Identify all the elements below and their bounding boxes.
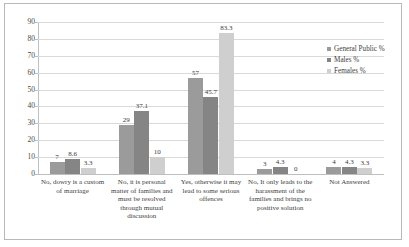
legend-item[interactable]: Females % [327,66,403,76]
y-axis-tick-mark [35,56,38,57]
y-axis-tick-mark [35,73,38,74]
bar[interactable] [203,97,218,174]
bar-group: 78.63.3 [38,22,107,174]
y-axis-tick-mark [35,140,38,141]
x-axis-category-label: No, it is personal matter of families an… [108,178,175,221]
bar[interactable] [50,162,65,174]
bar[interactable] [357,168,372,174]
y-axis-tick-mark [35,157,38,158]
bar[interactable] [326,167,341,174]
legend-swatch-icon [327,47,331,51]
bar[interactable] [81,168,96,174]
legend-swatch-icon [327,58,331,62]
legend-item-label: General Public % [334,45,385,53]
y-axis-tick-label: 90 [11,18,35,26]
bar-value-label: 0 [284,165,307,173]
bar-value-label: 3.3 [353,159,376,167]
x-axis-category-label: No, It only leads to the harassment of t… [247,178,314,212]
bar-value-label: 3.3 [77,159,100,167]
legend-item[interactable]: Males % [327,55,403,65]
chart-legend: General Public %Males %Females % [327,44,403,77]
bar[interactable] [134,111,149,174]
y-axis-tick-mark [35,106,38,107]
y-axis-tick-mark [35,123,38,124]
y-axis-tick-label: 40 [11,102,35,110]
y-axis-tick-label: 30 [11,119,35,127]
y-axis-tick-label: 0 [11,170,35,178]
x-axis-category-label: Not Answered [316,178,383,187]
y-axis-tick-label: 60 [11,69,35,77]
bar[interactable] [219,33,234,174]
x-axis-category-label: Yes, otherwise it may lead to some serio… [177,178,244,204]
y-axis-tick-labels: 0102030405060708090 [8,4,35,247]
bar-value-label: 83.3 [215,24,238,32]
bar-value-label: 57 [184,69,207,77]
x-axis-category-labels: No, dowry is a custom of marriageNo, it … [38,178,384,240]
bar-group: 34.30 [246,22,315,174]
bar[interactable] [119,125,134,174]
x-axis-line [38,174,384,175]
bar-group: 5745.783.3 [176,22,245,174]
bar-group: 2937.110 [107,22,176,174]
bar[interactable] [150,157,165,174]
y-axis-tick-mark [35,174,38,175]
bar[interactable] [342,167,357,174]
legend-item[interactable]: General Public % [327,44,403,54]
chart-container: 0102030405060708090 78.63.32937.1105745.… [4,3,402,240]
y-axis-tick-label: 20 [11,136,35,144]
legend-swatch-icon [327,69,331,73]
y-axis-tick-label: 80 [11,35,35,43]
y-axis-tick-label: 10 [11,153,35,161]
y-axis-tick-mark [35,22,38,23]
y-axis-tick-mark [35,90,38,91]
y-axis-tick-mark [35,39,38,40]
legend-item-label: Females % [334,67,366,75]
y-axis-tick-label: 50 [11,86,35,94]
legend-item-label: Males % [334,56,359,64]
x-axis-category-label: No, dowry is a custom of marriage [39,178,106,195]
y-axis-tick-label: 70 [11,52,35,60]
bar-value-label: 37.1 [130,102,153,110]
bar-value-label: 10 [146,148,169,156]
bar-value-label: 8.6 [61,150,84,158]
bar[interactable] [257,169,272,174]
